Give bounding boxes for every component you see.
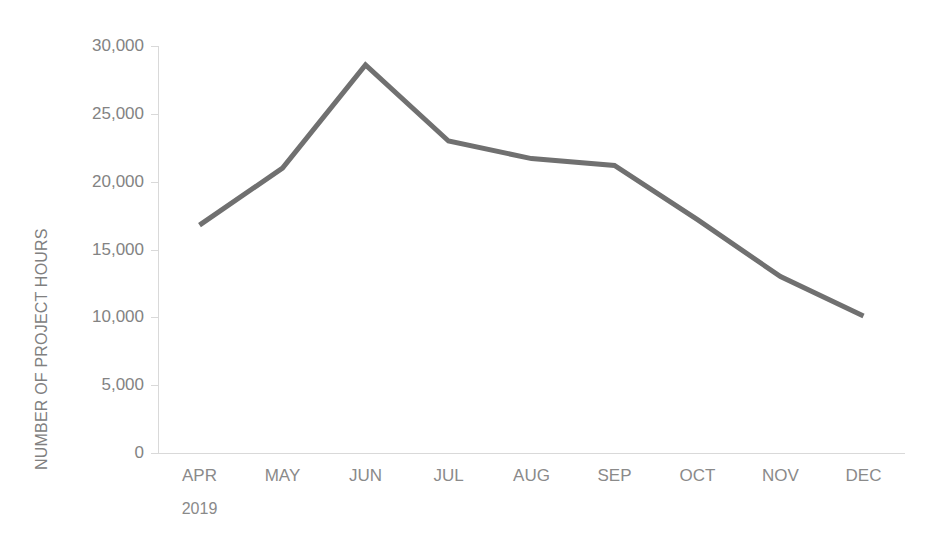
x-axis-tick-label: NOV [762,466,799,486]
x-axis-tick-label: JUL [433,466,463,486]
y-axis-tick-label: 20,000 [48,172,144,192]
y-axis-tick-mark [151,385,158,386]
y-axis-tick-label: 15,000 [48,240,144,260]
x-axis-tick-label: AUG [513,466,550,486]
x-axis-tick-label: MAY [265,466,301,486]
y-axis-tick-label: 25,000 [48,104,144,124]
x-axis-tick-label: OCT [680,466,716,486]
y-axis-tick-label: 10,000 [48,307,144,327]
y-axis-line [158,46,159,454]
y-axis-tick-labels: 05,00010,00015,00020,00025,00030,000 [48,0,144,547]
y-axis-tick-mark [151,317,158,318]
y-axis-tick-mark [151,114,158,115]
x-axis-tick-label: APR [182,466,217,486]
y-axis-tick-mark [151,250,158,251]
y-axis-tick-label: 5,000 [48,375,144,395]
x-axis-tick-label: JUN [349,466,382,486]
x-axis-tick-label: DEC [846,466,882,486]
y-axis-tick-label: 30,000 [48,36,144,56]
y-axis-tick-mark [151,453,158,454]
y-axis-tick-mark [151,182,158,183]
x-axis-line [158,453,905,454]
y-axis-tick-mark [151,46,158,47]
y-axis-tick-label: 0 [48,443,144,463]
x-axis-tick-label: SEP [597,466,631,486]
x-axis-group-label: 2019 [182,500,218,518]
line-chart: NUMBER OF PROJECT HOURS 05,00010,00015,0… [0,0,939,547]
series-line-project-hours [200,65,864,316]
